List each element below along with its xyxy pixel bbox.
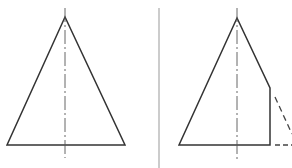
cut-cone-view — [179, 8, 292, 160]
cut-cone-outline — [179, 18, 270, 145]
hidden-slant-line — [275, 97, 292, 134]
cone-outline — [7, 17, 125, 145]
technical-drawing — [0, 0, 292, 168]
full-cone-view — [7, 8, 125, 158]
drawing-canvas — [0, 0, 292, 168]
